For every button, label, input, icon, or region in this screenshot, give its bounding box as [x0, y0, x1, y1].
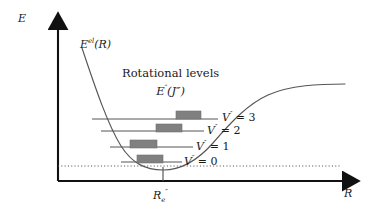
tick-label-subscript: e — [161, 196, 165, 204]
potential-energy-diagram: E R Re″ Eel(R) Rotational levels E″(J″) … — [0, 0, 368, 215]
diagram-canvas — [0, 0, 368, 215]
level-0-value: = 0 — [198, 155, 218, 168]
annotation-energy-argument: (J″) — [167, 83, 185, 97]
rotational-block-0 — [137, 155, 163, 163]
rotational-block-1 — [130, 140, 157, 148]
vibrational-level-label-1: V″ = 1 — [196, 140, 229, 152]
tick-label-prime: ″ — [165, 188, 167, 196]
rotational-levels-annotation: Rotational levels E″(J″) — [122, 68, 219, 97]
vibrational-level-label-2: V″ = 2 — [207, 124, 240, 136]
rotational-block-2 — [156, 124, 182, 132]
vibrational-level-label-0: V″ = 0 — [184, 155, 217, 167]
level-2-prime: ″ — [215, 123, 217, 131]
level-1-value: = 1 — [210, 140, 230, 153]
curve-label: Eel(R) — [80, 38, 111, 50]
rotational-block-3 — [176, 111, 201, 119]
level-0-prime: ″ — [192, 154, 194, 162]
curve-label-argument: (R) — [94, 38, 111, 51]
level-3-symbol: V — [222, 111, 230, 124]
annotation-line-1: Rotational levels — [122, 68, 219, 80]
level-1-symbol: V — [196, 140, 204, 153]
curve-label-base: E — [80, 38, 88, 51]
vibrational-level-label-3: V″ = 3 — [222, 111, 255, 123]
annotation-energy-symbol: E — [156, 83, 164, 97]
y-axis-label: E — [18, 13, 26, 24]
level-3-prime: ″ — [230, 110, 232, 118]
level-0-symbol: V — [184, 155, 192, 168]
annotation-line-2: E″(J″) — [122, 84, 219, 97]
level-2-value: = 2 — [221, 124, 241, 137]
level-3-value: = 3 — [236, 111, 256, 124]
level-2-symbol: V — [207, 124, 215, 137]
x-axis-label: R — [344, 188, 352, 199]
level-1-prime: ″ — [204, 139, 206, 147]
x-axis-tick-label: Re″ — [153, 189, 168, 204]
